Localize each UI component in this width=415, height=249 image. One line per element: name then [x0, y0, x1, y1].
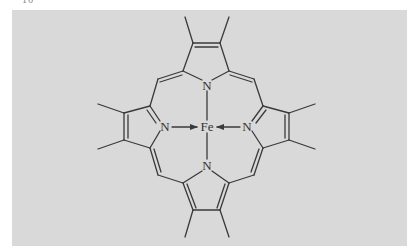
atom-n-right: N — [242, 119, 252, 134]
pyrrole-ring-left — [98, 104, 160, 149]
atom-n-bottom: N — [202, 158, 212, 173]
methyl-right-bottom — [289, 140, 315, 149]
meso-bridge-bottom-right — [229, 148, 263, 183]
methyl-right-top — [289, 104, 315, 113]
atom-n-top: N — [202, 78, 212, 93]
meso-bridge-top-left — [150, 71, 183, 106]
atom-n-left: N — [160, 119, 170, 134]
methyl-left-top — [98, 104, 124, 113]
methyl-bottom-left — [185, 210, 193, 237]
meso-bridge-bottom-left — [150, 148, 183, 183]
methyl-left-bottom — [98, 140, 124, 149]
porphyrin-structure: Fe N N N N — [0, 0, 415, 249]
methyl-bottom-right — [220, 210, 229, 237]
pyrrole-ring-right — [252, 104, 315, 149]
methyl-top-right — [220, 17, 229, 43]
methyl-top-left — [185, 17, 193, 43]
atom-fe: Fe — [201, 119, 214, 134]
pyrrole-ring-top — [183, 17, 229, 80]
pyrrole-ring-bottom — [183, 171, 229, 237]
meso-bridge-top-right — [229, 71, 263, 106]
